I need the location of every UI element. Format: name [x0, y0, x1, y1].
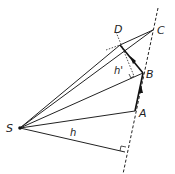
- kepler-area-diagram: S A B C D h h': [0, 0, 175, 174]
- ray-S-B: [20, 73, 143, 128]
- ray-S-C: [20, 30, 153, 128]
- label-S: S: [6, 122, 13, 135]
- label-h-prime: h': [114, 65, 123, 76]
- label-C: C: [157, 24, 165, 37]
- point-S-marker: [18, 126, 22, 130]
- right-angle-mark-h: [120, 146, 126, 151]
- label-D: D: [114, 23, 122, 36]
- label-B: B: [146, 68, 154, 81]
- label-A: A: [138, 107, 147, 120]
- dotted-short-line: [106, 45, 120, 50]
- label-h: h: [70, 127, 76, 138]
